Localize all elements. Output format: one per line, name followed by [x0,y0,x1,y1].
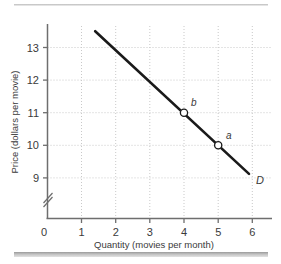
xtick-label-2: 2 [113,226,119,238]
vertical-gridlines [82,26,253,218]
y-axis-title: Price (dollars per movie) [9,71,20,174]
ytick-label-9: 9 [33,172,39,184]
xtick-label-5: 5 [215,226,221,238]
bottom-divider-rule [14,252,268,257]
ytick-label-13: 13 [27,42,39,54]
xtick-label-3: 3 [147,226,153,238]
demand-curve-chart: 13 12 11 10 9 0 1 2 3 4 5 6 b a D Quanti… [0,0,281,264]
xtick-label-6: 6 [249,226,255,238]
ytick-label-12: 12 [27,74,39,86]
ytick-label-11: 11 [28,107,39,119]
xtick-label-1: 1 [78,226,84,238]
x-axis-title: Quantity (movies per month) [94,239,214,250]
point-label-b: b [191,97,197,108]
data-point-b-marker [180,109,187,116]
ytick-label-10: 10 [27,139,39,151]
xtick-label-4: 4 [181,226,187,238]
data-point-a-marker [215,142,222,149]
xtick-label-0: 0 [41,226,47,238]
axis-lines [47,24,273,219]
point-label-a: a [226,130,232,141]
demand-curve-line [95,31,249,174]
figure-container: 13 12 11 10 9 0 1 2 3 4 5 6 b a D Quanti… [0,0,281,264]
curve-label-d: D [256,174,264,186]
